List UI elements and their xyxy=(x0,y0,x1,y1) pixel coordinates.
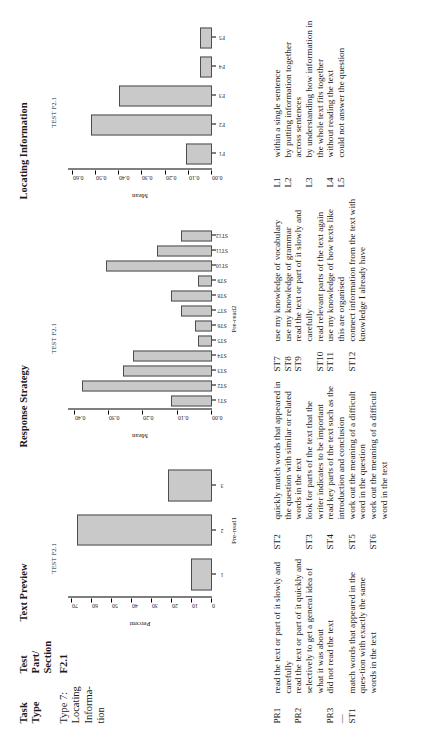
key-item-description: look for parts of the text that the writ… xyxy=(304,377,325,519)
key-item-code: L4 xyxy=(325,157,336,187)
bar xyxy=(200,56,212,77)
column-header-response-strategy: Response Strategy xyxy=(18,364,30,447)
y-axis-tick-label: 10 xyxy=(192,602,198,608)
key-item: L5could not answer the question xyxy=(336,19,347,187)
key-item-code: ST5 xyxy=(347,519,368,549)
x-axis-tick xyxy=(212,295,216,296)
bar xyxy=(91,114,212,135)
x-axis-tick xyxy=(212,37,216,38)
bar-slot: F2 xyxy=(68,110,212,139)
y-axis-tick-label: 0 xyxy=(212,602,215,608)
y-axis-tick xyxy=(141,170,142,174)
key-item: PR3did not read the text xyxy=(325,555,336,723)
y-axis-tick-label: 0.20 xyxy=(166,174,177,180)
key-item-description: connect information from the text with k… xyxy=(347,195,368,341)
bar xyxy=(191,558,212,590)
y-axis-tick-label: 0.30 xyxy=(142,174,153,180)
chart-caption: TEST F2.1 xyxy=(50,322,57,353)
x-axis-tick xyxy=(212,370,216,371)
x-axis-tick xyxy=(212,484,216,485)
bar xyxy=(181,305,212,316)
x-axis-tick xyxy=(212,355,216,356)
key-item: L2by putting information together across… xyxy=(283,19,304,187)
bar xyxy=(106,260,212,271)
key-item-description: within a single sentence xyxy=(272,19,283,157)
x-axis-label: Pre-read1 xyxy=(230,516,238,543)
y-axis-tick-label: 0.10 xyxy=(178,414,189,420)
key-item-code: ST2 xyxy=(272,519,304,549)
y-axis-tick-label: 0.60 xyxy=(73,174,84,180)
bar-slot: F3 xyxy=(68,81,212,110)
y-axis-tick xyxy=(188,170,189,174)
x-axis-tick-label: ST11 xyxy=(216,248,228,254)
x-axis-tick-label: F3 xyxy=(219,93,225,99)
key-column-3: ST7use my knowledge of vocabularyST8use … xyxy=(272,195,368,371)
x-axis-tick xyxy=(212,529,216,530)
key-item-code: ST10 xyxy=(315,341,326,371)
page-rotation-wrapper: TaskType TestPart/Section Text Preview R… xyxy=(0,0,448,739)
x-axis-tick xyxy=(212,400,216,401)
legend-key-block: PR1read the text or part of it slowly an… xyxy=(272,0,442,739)
key-item-description: by understanding how information in the … xyxy=(304,19,325,157)
key-item: ST2quickly match words that appeared in … xyxy=(272,377,304,549)
bar xyxy=(186,143,212,164)
x-axis-tick xyxy=(212,280,216,281)
key-item-description: use my knowledge of how texts like this … xyxy=(325,195,346,341)
y-axis-tick xyxy=(191,598,192,602)
bar xyxy=(200,27,212,48)
bar xyxy=(198,335,212,346)
bar-slot: F4 xyxy=(68,52,212,81)
chart-response-strategy: TEST F2.1 Mean Pre-read2 ST1ST2ST3ST4ST5… xyxy=(52,224,242,439)
x-axis-tick xyxy=(212,153,216,154)
x-axis-tick-label: ST5 xyxy=(217,338,226,344)
bar-slot: ST2 xyxy=(68,378,212,393)
x-axis-tick xyxy=(212,325,216,326)
row-label-task-type: Type 7:LocatingInforma-tion xyxy=(58,671,108,723)
y-axis-label: Mean xyxy=(132,431,148,439)
key-item-code: L3 xyxy=(304,157,325,187)
bar-slot: ST3 xyxy=(68,363,212,378)
y-axis-tick xyxy=(108,410,109,414)
y-axis-tick-label: 0.50 xyxy=(96,174,107,180)
y-axis-tick-label: 0.40 xyxy=(119,174,130,180)
y-axis-tick xyxy=(211,598,212,602)
x-axis-tick-label: 3 xyxy=(221,482,224,488)
key-item-code: ST8 xyxy=(283,341,294,371)
y-axis-tick-label: 30 xyxy=(152,602,158,608)
x-axis-tick xyxy=(212,385,216,386)
x-axis-tick-label: ST3 xyxy=(217,368,226,374)
key-item: ST7use my knowledge of vocabulary xyxy=(272,195,283,371)
key-item: ST4read key parts of the text such as th… xyxy=(325,377,346,549)
x-axis-tick xyxy=(212,340,216,341)
key-item: ST8use my knowledge of grammar xyxy=(283,195,294,371)
x-axis-tick-label: ST9 xyxy=(217,278,226,284)
plot-area: Percent Pre-read1 123 010203040506070 xyxy=(68,463,212,597)
y-axis-tick-label: 70 xyxy=(72,602,78,608)
key-item-code: ST3 xyxy=(304,519,325,549)
key-item: ST10read relevant parts of the text agai… xyxy=(315,195,326,371)
bar-slot: ST10 xyxy=(68,258,212,273)
x-axis-tick xyxy=(212,124,216,125)
bar-slot: 1 xyxy=(68,552,212,596)
x-axis-tick-label: ST7 xyxy=(217,308,226,314)
document-page: TaskType TestPart/Section Text Preview R… xyxy=(0,0,448,739)
chart-caption: TEST F2.1 xyxy=(50,96,57,127)
chart-caption: TEST F2.1 xyxy=(50,542,57,573)
x-axis-tick xyxy=(212,66,216,67)
plot-area: Mean F1F2F3F4F5 0.000.100.200.300.400.50… xyxy=(68,23,212,169)
key-item-code: PR1 xyxy=(272,693,293,723)
row-value-test-part-section: F2.1 xyxy=(58,653,69,673)
bar xyxy=(157,245,212,256)
y-axis-tick xyxy=(151,598,152,602)
bar-slot: ST7 xyxy=(68,303,212,318)
column-header-task-type: TaskType xyxy=(18,679,42,723)
y-axis-tick xyxy=(91,598,92,602)
key-item-description xyxy=(336,555,347,693)
y-axis-tick xyxy=(211,170,212,174)
bar xyxy=(82,380,212,391)
key-column-2: ST2quickly match words that appeared in … xyxy=(272,377,389,549)
chart-text-preview: TEST F2.1 Percent Pre-read1 123 01020304… xyxy=(52,459,242,627)
bar-slot: ST8 xyxy=(68,288,212,303)
key-item-description: read the text or part of it slowly and c… xyxy=(272,555,293,693)
key-item-description: read key parts of the text such as the i… xyxy=(325,377,346,519)
